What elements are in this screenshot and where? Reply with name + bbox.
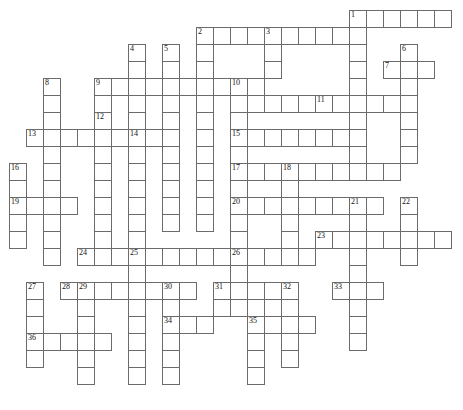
crossword-cell[interactable] <box>264 44 282 62</box>
crossword-cell[interactable] <box>162 112 180 130</box>
crossword-cell[interactable] <box>281 180 299 198</box>
crossword-cell[interactable] <box>94 231 112 249</box>
crossword-cell[interactable] <box>43 231 61 249</box>
crossword-cell[interactable] <box>417 10 435 28</box>
crossword-cell[interactable] <box>196 112 214 130</box>
crossword-cell[interactable] <box>281 129 299 147</box>
crossword-cell[interactable] <box>43 333 61 351</box>
crossword-cell[interactable] <box>281 350 299 368</box>
crossword-cell-numbered-22[interactable]: 22 <box>400 197 418 215</box>
crossword-cell[interactable] <box>315 27 333 45</box>
crossword-cell-numbered-3[interactable]: 3 <box>264 27 282 45</box>
crossword-cell[interactable] <box>213 78 231 96</box>
crossword-cell-numbered-25[interactable]: 25 <box>128 248 146 266</box>
crossword-cell[interactable] <box>247 333 265 351</box>
crossword-cell[interactable] <box>94 163 112 181</box>
crossword-cell[interactable] <box>281 27 299 45</box>
crossword-cell[interactable] <box>332 95 350 113</box>
crossword-cell[interactable] <box>264 316 282 334</box>
crossword-cell[interactable] <box>366 95 384 113</box>
crossword-cell[interactable] <box>281 231 299 249</box>
crossword-cell[interactable] <box>196 248 214 266</box>
crossword-cell-numbered-34[interactable]: 34 <box>162 316 180 334</box>
crossword-cell[interactable] <box>94 248 112 266</box>
crossword-cell[interactable] <box>162 214 180 232</box>
crossword-cell[interactable] <box>162 61 180 79</box>
crossword-cell[interactable] <box>332 129 350 147</box>
crossword-cell[interactable] <box>230 231 248 249</box>
crossword-cell[interactable] <box>349 316 367 334</box>
crossword-cell-numbered-4[interactable]: 4 <box>128 44 146 62</box>
crossword-cell[interactable] <box>366 163 384 181</box>
crossword-cell[interactable] <box>349 44 367 62</box>
crossword-cell[interactable] <box>315 163 333 181</box>
crossword-cell[interactable] <box>9 231 27 249</box>
crossword-cell[interactable] <box>128 180 146 198</box>
crossword-cell[interactable] <box>111 282 129 300</box>
crossword-cell[interactable] <box>366 231 384 249</box>
crossword-cell[interactable] <box>77 299 95 317</box>
crossword-cell[interactable] <box>60 129 78 147</box>
crossword-cell[interactable] <box>196 316 214 334</box>
crossword-cell[interactable] <box>400 10 418 28</box>
crossword-cell[interactable] <box>349 146 367 164</box>
crossword-cell[interactable] <box>400 95 418 113</box>
crossword-cell[interactable] <box>247 197 265 215</box>
crossword-cell[interactable] <box>179 282 197 300</box>
crossword-cell[interactable] <box>400 248 418 266</box>
crossword-cell[interactable] <box>128 265 146 283</box>
crossword-cell-numbered-28[interactable]: 28 <box>60 282 78 300</box>
crossword-cell[interactable] <box>281 248 299 266</box>
crossword-cell-numbered-35[interactable]: 35 <box>247 316 265 334</box>
crossword-cell[interactable] <box>128 112 146 130</box>
crossword-cell[interactable] <box>230 265 248 283</box>
crossword-cell[interactable] <box>128 350 146 368</box>
crossword-cell-numbered-20[interactable]: 20 <box>230 197 248 215</box>
crossword-cell[interactable] <box>26 316 44 334</box>
crossword-cell[interactable] <box>298 163 316 181</box>
crossword-cell[interactable] <box>179 78 197 96</box>
crossword-cell[interactable] <box>94 197 112 215</box>
crossword-cell[interactable] <box>213 299 231 317</box>
crossword-cell[interactable] <box>349 78 367 96</box>
crossword-cell[interactable] <box>264 282 282 300</box>
crossword-cell-numbered-13[interactable]: 13 <box>26 129 44 147</box>
crossword-cell[interactable] <box>298 316 316 334</box>
crossword-cell[interactable] <box>247 299 265 317</box>
crossword-cell[interactable] <box>111 78 129 96</box>
crossword-cell-numbered-5[interactable]: 5 <box>162 44 180 62</box>
crossword-cell[interactable] <box>349 333 367 351</box>
crossword-cell[interactable] <box>264 129 282 147</box>
crossword-cell[interactable] <box>400 112 418 130</box>
crossword-cell-numbered-12[interactable]: 12 <box>94 112 112 130</box>
crossword-cell[interactable] <box>162 299 180 317</box>
crossword-cell-numbered-1[interactable]: 1 <box>349 10 367 28</box>
crossword-cell[interactable] <box>196 78 214 96</box>
crossword-cell[interactable] <box>162 350 180 368</box>
crossword-cell[interactable] <box>60 197 78 215</box>
crossword-cell[interactable] <box>349 112 367 130</box>
crossword-cell[interactable] <box>366 197 384 215</box>
crossword-cell[interactable] <box>264 61 282 79</box>
crossword-cell[interactable] <box>281 214 299 232</box>
crossword-cell[interactable] <box>400 129 418 147</box>
crossword-cell[interactable] <box>281 95 299 113</box>
crossword-cell-numbered-11[interactable]: 11 <box>315 95 333 113</box>
crossword-cell[interactable] <box>383 163 401 181</box>
crossword-cell-numbered-15[interactable]: 15 <box>230 129 248 147</box>
crossword-cell[interactable] <box>128 197 146 215</box>
crossword-cell[interactable] <box>162 248 180 266</box>
crossword-cell-numbered-6[interactable]: 6 <box>400 44 418 62</box>
crossword-cell[interactable] <box>383 231 401 249</box>
crossword-cell[interactable] <box>128 316 146 334</box>
crossword-cell[interactable] <box>230 27 248 45</box>
crossword-cell[interactable] <box>128 367 146 385</box>
crossword-cell[interactable] <box>298 248 316 266</box>
crossword-cell[interactable] <box>230 299 248 317</box>
crossword-cell[interactable] <box>94 129 112 147</box>
crossword-cell-numbered-18[interactable]: 18 <box>281 163 299 181</box>
crossword-cell-numbered-8[interactable]: 8 <box>43 78 61 96</box>
crossword-cell[interactable] <box>281 333 299 351</box>
crossword-cell[interactable] <box>332 163 350 181</box>
crossword-cell[interactable] <box>43 163 61 181</box>
